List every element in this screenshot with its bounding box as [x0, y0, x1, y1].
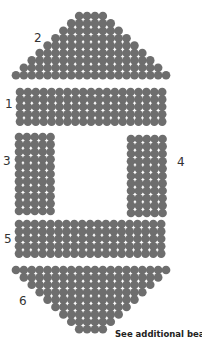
bead-section-5: [141, 249, 150, 258]
bead-section-2: [106, 41, 115, 50]
bead-section-2: [106, 56, 115, 65]
bead-section-2: [83, 19, 92, 28]
bead-section-6: [51, 295, 60, 304]
bead-section-1: [32, 95, 41, 104]
bead-section-3: [23, 170, 32, 179]
bead-section-2: [75, 12, 84, 21]
bead-section-4: [143, 150, 152, 159]
bead-section-4: [127, 150, 136, 159]
bead-section-2: [83, 41, 92, 50]
bead-section-1: [126, 110, 135, 119]
bead-section-2: [91, 56, 100, 65]
bead-section-1: [71, 95, 80, 104]
bead-section-2: [75, 34, 84, 43]
bead-section-4: [158, 172, 167, 181]
section-label-5: 5: [4, 233, 12, 245]
bead-section-1: [87, 110, 96, 119]
bead-section-1: [142, 95, 151, 104]
bead-section-1: [150, 110, 159, 119]
bead-section-5: [62, 235, 71, 244]
bead-section-3: [38, 170, 47, 179]
additional-bead-note: See additional bead: [115, 329, 202, 339]
bead-section-2: [91, 41, 100, 50]
bead-section-5: [54, 242, 63, 251]
bead-section-2: [67, 27, 76, 36]
bead-section-1: [79, 95, 88, 104]
bead-section-3: [23, 155, 32, 164]
bead-section-1: [134, 117, 143, 126]
bead-section-2: [35, 56, 44, 65]
bead-section-3: [15, 155, 24, 164]
bead-section-1: [55, 103, 64, 112]
bead-section-2: [91, 27, 100, 36]
bead-section-3: [31, 162, 40, 171]
bead-section-5: [117, 227, 126, 236]
bead-section-3: [38, 148, 47, 157]
bead-section-6: [130, 281, 139, 290]
bead-section-5: [62, 220, 71, 229]
bead-section-3: [31, 199, 40, 208]
bead-section-2: [99, 64, 108, 73]
bead-section-1: [118, 95, 127, 104]
bead-section-5: [38, 227, 47, 236]
bead-section-2: [59, 71, 68, 80]
bead-section-5: [157, 220, 166, 229]
bead-section-5: [62, 249, 71, 258]
bead-section-1: [87, 117, 96, 126]
bead-section-5: [15, 242, 24, 251]
bead-section-6: [20, 266, 29, 275]
bead-section-3: [31, 148, 40, 157]
bead-section-6: [91, 303, 100, 312]
bead-section-4: [135, 179, 144, 188]
bead-section-4: [158, 157, 167, 166]
bead-section-6: [35, 273, 44, 282]
bead-section-4: [150, 164, 159, 173]
bead-section-1: [24, 103, 33, 112]
bead-section-1: [16, 95, 25, 104]
bead-section-6: [67, 273, 76, 282]
bead-section-1: [158, 103, 167, 112]
bead-section-4: [143, 187, 152, 196]
bead-section-2: [67, 71, 76, 80]
bead-section-5: [157, 242, 166, 251]
bead-section-5: [15, 249, 24, 258]
bead-section-2: [12, 71, 21, 80]
bead-section-6: [59, 295, 68, 304]
bead-section-5: [23, 249, 32, 258]
bead-section-6: [99, 281, 108, 290]
bead-section-1: [47, 88, 56, 97]
bead-section-2: [27, 71, 36, 80]
bead-section-6: [114, 266, 123, 275]
bead-section-2: [75, 41, 84, 50]
bead-section-3: [46, 192, 55, 201]
bead-section-2: [67, 19, 76, 28]
bead-section-2: [99, 56, 108, 65]
bead-section-6: [83, 325, 92, 334]
bead-section-5: [62, 227, 71, 236]
bead-section-2: [146, 71, 155, 80]
bead-section-2: [99, 41, 108, 50]
bead-section-1: [150, 95, 159, 104]
bead-section-6: [99, 288, 108, 297]
bead-section-6: [51, 288, 60, 297]
bead-section-5: [70, 220, 79, 229]
bead-section-1: [63, 110, 72, 119]
bead-section-2: [91, 71, 100, 80]
bead-section-6: [106, 295, 115, 304]
bead-section-6: [99, 310, 108, 319]
bead-section-3: [46, 148, 55, 157]
bead-section-5: [141, 235, 150, 244]
bead-section-2: [130, 71, 139, 80]
bead-section-6: [99, 318, 108, 327]
bead-section-2: [114, 34, 123, 43]
bead-section-5: [23, 235, 32, 244]
bead-section-6: [20, 273, 29, 282]
bead-section-2: [67, 64, 76, 73]
bead-section-2: [83, 34, 92, 43]
bead-section-1: [24, 95, 33, 104]
bead-section-1: [24, 88, 33, 97]
bead-section-4: [143, 201, 152, 210]
bead-section-1: [32, 88, 41, 97]
bead-section-2: [35, 71, 44, 80]
bead-section-2: [91, 64, 100, 73]
